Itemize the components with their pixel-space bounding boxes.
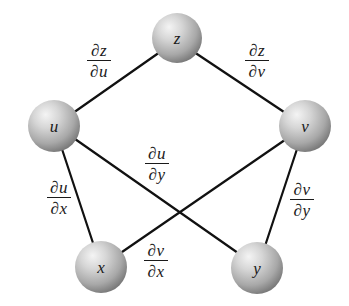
node-x: x: [75, 241, 127, 293]
denominator: ∂v: [249, 63, 266, 80]
node-label-z: z: [173, 29, 181, 48]
node-label-x: x: [96, 258, 105, 277]
numerator: ∂z: [249, 42, 265, 59]
node-label-v: v: [301, 117, 309, 136]
fraction-bar: [290, 199, 314, 200]
denominator: ∂y: [294, 202, 311, 219]
numerator: ∂v: [294, 181, 311, 198]
edge-label-du-dx: ∂u ∂x: [44, 179, 74, 217]
node-u: u: [28, 100, 80, 152]
node-label-y: y: [251, 259, 261, 278]
node-label-u: u: [50, 117, 59, 136]
edge-label-dv-dx: ∂v ∂x: [141, 242, 171, 280]
edge-label-dz-dv: ∂z ∂v: [242, 42, 272, 80]
denominator: ∂y: [149, 166, 166, 183]
numerator: ∂z: [91, 42, 107, 59]
node-y: y: [231, 242, 283, 294]
node-v: v: [279, 100, 331, 152]
fraction-bar: [87, 60, 111, 61]
fraction-bar: [145, 163, 169, 164]
numerator: ∂u: [148, 145, 166, 162]
numerator: ∂v: [148, 242, 165, 259]
denominator: ∂u: [90, 63, 108, 80]
chain-rule-tree-diagram: z u v x y: [0, 0, 349, 306]
fraction-bar: [144, 260, 168, 261]
numerator: ∂u: [50, 179, 68, 196]
edge-label-dv-dy: ∂v ∂y: [287, 181, 317, 219]
edge-label-du-dy: ∂u ∂y: [142, 145, 172, 183]
edges: [58, 52, 301, 253]
edge-label-dz-du: ∂z ∂u: [84, 42, 114, 80]
denominator: ∂x: [148, 263, 165, 280]
fraction-bar: [47, 197, 71, 198]
fraction-bar: [245, 60, 269, 61]
node-z: z: [152, 13, 202, 63]
denominator: ∂x: [51, 200, 68, 217]
